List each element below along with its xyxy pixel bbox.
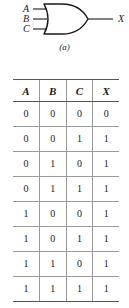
- cell-x: 0: [93, 102, 119, 127]
- cell-a: 1: [13, 277, 39, 302]
- cell-a: 0: [13, 177, 39, 202]
- table-row: 0 1 1 1: [13, 177, 119, 202]
- column-header-c: C: [66, 80, 93, 102]
- cell-x: 1: [93, 152, 119, 177]
- table-row: 0 0 1 1: [13, 127, 119, 152]
- cell-a: 0: [13, 127, 39, 152]
- cell-b: 0: [39, 202, 66, 227]
- cell-c: 0: [66, 152, 93, 177]
- table-row: 1 0 0 1: [13, 202, 119, 227]
- output-label-x: X: [118, 14, 124, 24]
- cell-b: 1: [39, 152, 66, 177]
- cell-x: 1: [93, 227, 119, 252]
- cell-b: 1: [39, 252, 66, 277]
- truth-table: A B C X 0 0 0 0 0 0 1 1 0 1 0: [13, 79, 119, 302]
- figure-caption: (a): [0, 42, 129, 53]
- table-row: 1 0 1 1: [13, 227, 119, 252]
- cell-c: 0: [66, 252, 93, 277]
- column-header-a: A: [13, 80, 39, 102]
- cell-b: 0: [39, 127, 66, 152]
- cell-b: 0: [39, 227, 66, 252]
- column-header-x: X: [93, 80, 119, 102]
- cell-c: 0: [66, 202, 93, 227]
- column-header-b: B: [39, 80, 66, 102]
- cell-c: 1: [66, 177, 93, 202]
- truth-table-container: A B C X 0 0 0 0 0 0 1 1 0 1 0: [13, 79, 116, 302]
- cell-a: 1: [13, 252, 39, 277]
- cell-x: 1: [93, 277, 119, 302]
- cell-b: 0: [39, 102, 66, 127]
- cell-c: 1: [66, 227, 93, 252]
- cell-x: 1: [93, 127, 119, 152]
- table-row: 1 1 0 1: [13, 252, 119, 277]
- table-row: 0 0 0 0: [13, 102, 119, 127]
- cell-b: 1: [39, 277, 66, 302]
- cell-a: 0: [13, 152, 39, 177]
- truth-table-header-row: A B C X: [13, 80, 119, 102]
- cell-c: 1: [66, 277, 93, 302]
- cell-x: 1: [93, 177, 119, 202]
- table-row: 1 1 1 1: [13, 277, 119, 302]
- or-gate-schematic: [0, 0, 129, 42]
- truth-table-head: A B C X: [13, 80, 119, 102]
- table-row: 0 1 0 1: [13, 152, 119, 177]
- cell-x: 1: [93, 202, 119, 227]
- input-label-c: C: [23, 24, 30, 34]
- cell-c: 0: [66, 102, 93, 127]
- cell-c: 1: [66, 127, 93, 152]
- or-gate-body: [44, 4, 88, 34]
- cell-b: 1: [39, 177, 66, 202]
- truth-table-body: 0 0 0 0 0 0 1 1 0 1 0 1 0 1 1 1: [13, 102, 119, 302]
- cell-x: 1: [93, 252, 119, 277]
- cell-a: 0: [13, 102, 39, 127]
- logic-gate-figure: A B C X (a): [0, 0, 129, 58]
- cell-a: 1: [13, 227, 39, 252]
- cell-a: 1: [13, 202, 39, 227]
